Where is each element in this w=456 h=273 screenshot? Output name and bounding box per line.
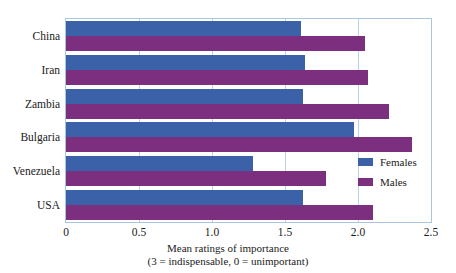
bar-males-china <box>66 36 365 51</box>
x-tick-label: 1.5 <box>278 226 292 239</box>
category-label-iran: Iran <box>2 64 60 76</box>
legend-swatch-females <box>358 158 373 166</box>
x-axis-title: Mean ratings of importance (3 = indispen… <box>0 242 456 267</box>
bar-males-bulgaria <box>66 137 412 152</box>
bar-group <box>66 190 431 220</box>
category-label-zambia: Zambia <box>2 98 60 110</box>
bar-males-zambia <box>66 104 389 119</box>
x-axis-title-line2: (3 = indispensable, 0 = unimportant) <box>0 255 456 268</box>
bar-group <box>66 89 431 119</box>
bar-group <box>66 21 431 51</box>
bar-females-venezuela <box>66 156 253 171</box>
bar-females-china <box>66 21 301 36</box>
bar-females-zambia <box>66 89 303 104</box>
legend-item-males[interactable]: Males <box>358 172 432 192</box>
category-label-bulgaria: Bulgaria <box>2 131 60 143</box>
legend-item-females[interactable]: Females <box>358 152 432 172</box>
x-tick-label: 1.0 <box>205 226 219 239</box>
x-tick-label: 0 <box>63 226 69 239</box>
bar-females-iran <box>66 55 305 70</box>
x-tick-label: 2.0 <box>351 226 365 239</box>
bar-males-venezuela <box>66 171 326 186</box>
category-label-venezuela: Venezuela <box>2 165 60 177</box>
legend-swatch-males <box>358 178 373 186</box>
bar-group <box>66 55 431 85</box>
legend-label: Females <box>380 156 417 168</box>
category-label-usa: USA <box>2 199 60 211</box>
bar-females-bulgaria <box>66 122 354 137</box>
category-axis: ChinaIranZambiaBulgariaVenezuelaUSA <box>0 19 60 222</box>
x-tick-label: 2.5 <box>424 226 438 239</box>
bar-males-iran <box>66 70 368 85</box>
bar-males-usa <box>66 205 373 220</box>
x-axis-title-line1: Mean ratings of importance <box>0 242 456 255</box>
bar-females-usa <box>66 190 303 205</box>
bar-group <box>66 122 431 152</box>
bar-chart: ChinaIranZambiaBulgariaVenezuelaUSA 00.5… <box>0 0 456 273</box>
legend-label: Males <box>380 176 407 188</box>
legend: FemalesMales <box>358 152 432 192</box>
x-tick-label: 0.5 <box>132 226 146 239</box>
category-label-china: China <box>2 30 60 42</box>
